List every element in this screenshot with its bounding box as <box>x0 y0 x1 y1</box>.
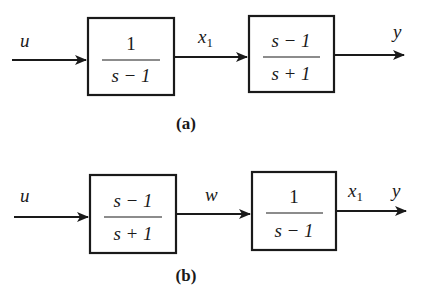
diagram-a: u 1 s − 1 x1 s − 1 s + 1 y (a) <box>12 16 404 133</box>
caption-b: (b) <box>176 266 197 285</box>
diagram-b: u s − 1 s + 1 w 1 s − 1 x1 y (b) <box>14 172 406 285</box>
output-label-y: y <box>390 180 401 201</box>
block-2-numerator: s − 1 <box>271 30 310 51</box>
block-diagram-canvas: u 1 s − 1 x1 s − 1 s + 1 y (a) u s − 1 s… <box>0 0 428 296</box>
input-label-u: u <box>20 185 30 206</box>
intermediate-label-x1: x1 <box>197 26 213 50</box>
output-label-y: y <box>391 21 402 42</box>
caption-a: (a) <box>176 114 196 133</box>
block-1-denominator: s − 1 <box>111 65 150 86</box>
block-2-denominator: s − 1 <box>274 220 313 241</box>
intermediate-label-w: w <box>205 184 218 205</box>
block-1-numerator: 1 <box>126 33 136 54</box>
state-label-x1: x1 <box>347 180 363 204</box>
block-2-numerator: 1 <box>289 186 299 207</box>
block-2-denominator: s + 1 <box>271 63 310 84</box>
block-1-denominator: s + 1 <box>113 223 152 244</box>
block-1-numerator: s − 1 <box>113 190 152 211</box>
input-label-u: u <box>20 30 30 51</box>
